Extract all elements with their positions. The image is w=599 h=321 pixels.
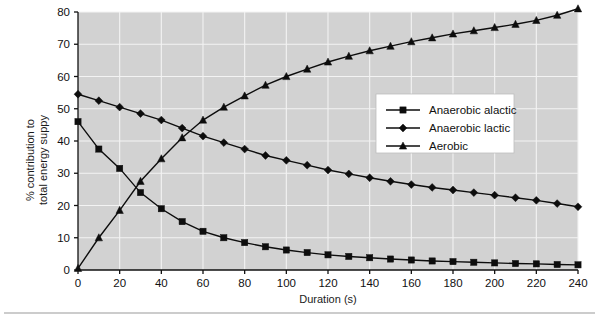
data-point-marker [367, 255, 373, 261]
data-point-marker [137, 190, 143, 196]
legend-label: Aerobic [429, 140, 468, 152]
data-point-marker [575, 262, 581, 268]
data-point-marker [387, 256, 393, 262]
y-tick-label: 10 [57, 232, 70, 244]
y-tick-label: 20 [57, 200, 70, 212]
y-axis-label-line1: % contribution to [24, 119, 36, 201]
x-tick-label: 60 [197, 277, 210, 289]
y-tick-label: 70 [57, 38, 70, 50]
y-tick-label: 40 [57, 135, 70, 147]
data-point-marker [471, 259, 477, 265]
data-point-marker [304, 249, 310, 255]
legend-label: Anaerobic lactic [429, 122, 510, 134]
chart-legend[interactable]: Anaerobic alacticAnaerobic lacticAerobic [376, 94, 517, 153]
data-point-marker [283, 247, 289, 253]
x-tick-label: 220 [527, 277, 546, 289]
data-point-marker [533, 261, 539, 267]
data-point-marker [200, 228, 206, 234]
data-point-marker [429, 258, 435, 264]
data-point-marker [408, 257, 414, 263]
y-tick-label: 30 [57, 167, 70, 179]
y-tick-label: 0 [64, 264, 70, 276]
x-tick-label: 240 [568, 277, 587, 289]
data-point-marker [117, 165, 123, 171]
data-point-marker [221, 235, 227, 241]
data-point-marker [346, 253, 352, 259]
x-tick-label: 80 [238, 277, 251, 289]
x-tick-label: 140 [360, 277, 379, 289]
square-marker-icon [400, 107, 406, 113]
legend-label: Anaerobic alactic [429, 104, 517, 116]
y-tick-label: 80 [57, 6, 70, 18]
data-point-marker [158, 206, 164, 212]
data-point-marker [450, 259, 456, 265]
x-tick-label: 0 [75, 277, 81, 289]
data-point-marker [242, 239, 248, 245]
y-tick-label: 60 [57, 71, 70, 83]
y-tick-label: 50 [57, 103, 70, 115]
x-tick-label: 40 [155, 277, 168, 289]
data-point-marker [262, 244, 268, 250]
x-tick-label: 200 [485, 277, 504, 289]
data-point-marker [554, 261, 560, 267]
data-point-marker [325, 252, 331, 258]
y-axis-label-line2: total energy suppy [37, 115, 49, 205]
data-point-marker [492, 260, 498, 266]
x-tick-label: 100 [277, 277, 296, 289]
x-tick-label: 120 [318, 277, 337, 289]
x-tick-label: 20 [113, 277, 126, 289]
x-tick-label: 180 [443, 277, 462, 289]
x-tick-label: 160 [402, 277, 421, 289]
data-point-marker [179, 219, 185, 225]
energy-system-contribution-chart: 01020304050607080 0204060801001201401601… [0, 0, 599, 321]
x-axis-label: Duration (s) [299, 293, 356, 305]
data-point-marker [512, 260, 518, 266]
data-point-marker [96, 146, 102, 152]
